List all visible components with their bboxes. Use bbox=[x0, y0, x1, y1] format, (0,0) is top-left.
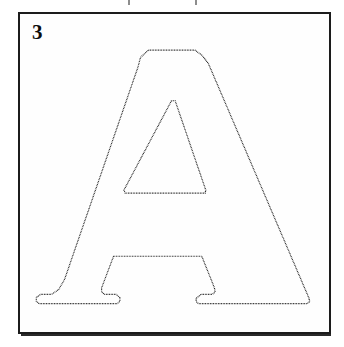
cropped-text-mark bbox=[195, 0, 197, 5]
worksheet-panel: 3 bbox=[18, 12, 331, 334]
cropped-text-mark bbox=[128, 0, 130, 5]
cropped-text-marks bbox=[0, 0, 344, 10]
letter-a-inner-counter-outline bbox=[124, 101, 206, 193]
letter-a-tracing-figure bbox=[20, 14, 333, 336]
letter-a-outer-outline bbox=[36, 50, 309, 304]
